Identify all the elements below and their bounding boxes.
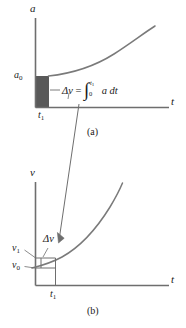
panel-b-t1-subscript: 1 <box>53 293 57 301</box>
panel-b-t1-label: t1 <box>50 289 56 301</box>
panel-b-caption: (b) <box>87 306 99 316</box>
integral-upper-limit: t1 <box>90 80 94 87</box>
panel-b-v1-label: v1 <box>12 243 20 255</box>
panel-b-y-axis-label: v <box>30 167 35 178</box>
v1-leader-line <box>25 250 36 258</box>
panel-a-x-axis-label: t <box>171 96 174 107</box>
panel-b-curve-velocity <box>32 183 123 268</box>
panel-a-curve-acceleration <box>49 26 156 76</box>
panel-b-delta-v-label: Δv <box>43 234 54 245</box>
equation-equals-sign: = <box>75 85 81 96</box>
panel-b-v1-subscript: 1 <box>16 247 20 255</box>
delta-v-integral-equation: Δv = ∫ t1 0 a dt <box>62 82 118 98</box>
connector-arrow <box>57 104 79 243</box>
panel-a-y-axis-label: a <box>30 3 36 14</box>
connector-arrow-head <box>57 233 64 244</box>
panel-b-v0-subscript: 0 <box>16 264 20 272</box>
integral-lower-limit: 0 <box>89 91 92 98</box>
connector-arrow-shaft <box>60 104 80 237</box>
panel-b-v0-label: v0 <box>12 260 20 272</box>
figure-graphics <box>0 0 186 328</box>
panel-b-delta-variable: v <box>49 233 54 244</box>
integral-symbol-group: ∫ t1 0 <box>84 82 99 98</box>
panel-a-caption: (a) <box>87 127 98 137</box>
equation-delta-variable: v <box>68 85 73 96</box>
panel-a-t1-subscript: 1 <box>41 114 45 122</box>
figure-container: a t a0 t1 Δv = ∫ t1 0 a dt (a) v t v1 v0… <box>0 0 186 328</box>
shaded-area-delta-v <box>36 76 50 108</box>
panel-a-t1-label: t1 <box>38 110 44 122</box>
panel-a-a0-label: a0 <box>14 70 23 82</box>
panel-b-x-axis-label: t <box>171 274 174 285</box>
integral-upper-limit-sub: 1 <box>92 82 95 87</box>
equation-integrand: a dt <box>102 85 118 96</box>
panel-a-a0-subscript: 0 <box>19 74 23 82</box>
delta-v-leader-line <box>43 248 48 257</box>
